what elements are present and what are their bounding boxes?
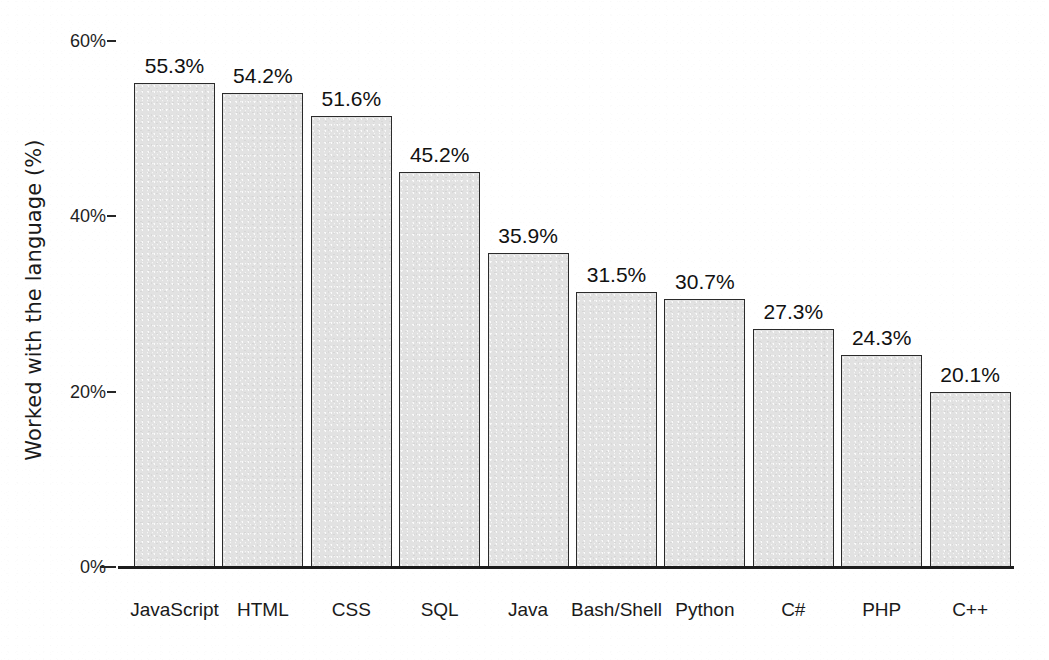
bar[interactable] — [753, 329, 834, 568]
x-axis-category-label: SQL — [421, 599, 459, 621]
y-axis-tick-mark — [107, 391, 116, 393]
x-axis-category-label: HTML — [237, 599, 289, 621]
bar[interactable] — [311, 116, 392, 568]
bar-group: 51.6%CSS — [311, 1, 392, 568]
x-axis-category-label: JavaScript — [130, 599, 219, 621]
bar-value-label: 55.3% — [145, 54, 205, 78]
bar-value-label: 51.6% — [322, 87, 382, 111]
bar[interactable] — [222, 93, 303, 568]
bar-value-label: 30.7% — [675, 270, 735, 294]
y-axis-tick-label: 40% — [32, 206, 106, 227]
bar-value-label: 31.5% — [587, 263, 647, 287]
bar[interactable] — [930, 392, 1011, 568]
plot-area: 55.3%JavaScript54.2%HTML51.6%CSS45.2%SQL… — [118, 0, 1014, 660]
bar-value-label: 27.3% — [764, 300, 824, 324]
bar-value-label: 45.2% — [410, 143, 470, 167]
bar[interactable] — [841, 355, 922, 568]
bar-group: 54.2%HTML — [222, 1, 303, 568]
y-axis-tick-mark — [100, 566, 116, 568]
bar-group: 45.2%SQL — [399, 1, 480, 568]
bar-value-label: 24.3% — [852, 326, 912, 350]
bar[interactable] — [576, 292, 657, 568]
y-axis-tick-mark — [107, 40, 116, 42]
bar[interactable] — [488, 253, 569, 568]
bar-group: 55.3%JavaScript — [134, 1, 215, 568]
bar-series: 55.3%JavaScript54.2%HTML51.6%CSS45.2%SQL… — [118, 0, 1014, 568]
bar-group: 20.1%C++ — [930, 1, 1011, 568]
y-axis-title-text: Worked with the language (%) — [22, 139, 46, 460]
x-axis-category-label: C# — [781, 599, 805, 621]
bar[interactable] — [399, 172, 480, 568]
y-axis-tick-label: 0% — [32, 557, 106, 578]
x-axis-category-label: C++ — [952, 599, 988, 621]
bar-value-label: 35.9% — [498, 224, 558, 248]
x-axis-category-label: Bash/Shell — [571, 599, 662, 621]
bar-chart-figure: Worked with the language (%) 0%20%40%60%… — [0, 0, 1049, 660]
x-axis-category-label: Python — [675, 599, 734, 621]
bar-group: 35.9%Java — [488, 1, 569, 568]
y-axis-tick-label: 20% — [32, 381, 106, 402]
x-axis-category-label: CSS — [332, 599, 371, 621]
y-axis-tick-mark — [107, 215, 116, 217]
bar-group: 31.5%Bash/Shell — [576, 1, 657, 568]
y-axis-title: Worked with the language (%) — [14, 0, 54, 600]
bar[interactable] — [664, 299, 745, 568]
bar-group: 24.3%PHP — [841, 1, 922, 568]
y-axis-tick-label: 60% — [32, 31, 106, 52]
bar[interactable] — [134, 83, 215, 568]
bar-group: 30.7%Python — [664, 1, 745, 568]
bar-value-label: 20.1% — [940, 363, 1000, 387]
x-axis-category-label: Java — [508, 599, 548, 621]
bar-group: 27.3%C# — [753, 1, 834, 568]
x-axis-category-label: PHP — [862, 599, 901, 621]
bar-value-label: 54.2% — [233, 64, 293, 88]
x-axis-baseline — [118, 566, 1014, 569]
